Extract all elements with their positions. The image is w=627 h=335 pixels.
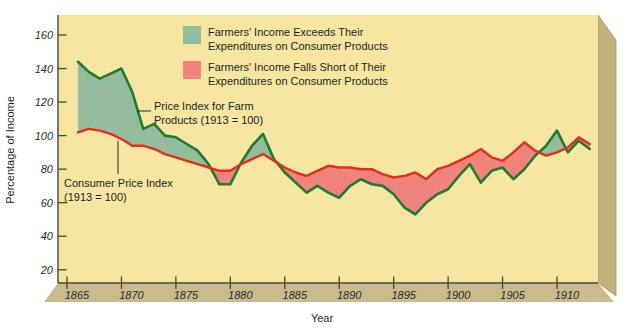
y-tick-label: 120	[35, 96, 54, 108]
cpi-label-line1: Consumer Price Index	[64, 177, 173, 189]
y-tick-label: 60	[41, 197, 54, 209]
x-tick-label: 1880	[228, 289, 253, 301]
farm-index-label-line1: Price Index for Farm	[154, 100, 254, 112]
farm-index-label-line2: Products (1913 = 100)	[154, 114, 263, 126]
x-tick-label: 1870	[119, 289, 144, 301]
y-tick-label: 20	[40, 264, 54, 276]
x-tick-label: 1885	[283, 289, 308, 301]
x-tick-label: 1865	[65, 289, 90, 301]
legend-label-exceeds-line1: Farmers' Income Exceeds Their	[208, 26, 364, 38]
x-tick-label: 1890	[337, 289, 362, 301]
y-tick-label: 160	[35, 29, 54, 41]
cpi-label-line2: (1913 = 100)	[64, 191, 127, 203]
farm-income-area-chart: 16014012010080604020 1865187018751880188…	[0, 0, 627, 335]
x-tick-label: 1900	[446, 289, 471, 301]
legend-label-falls-short-line2: Expenditures on Consumer Products	[208, 75, 388, 87]
y-axis-title: Percentage of Income	[4, 96, 16, 204]
chart-page: 16014012010080604020 1865187018751880188…	[0, 0, 627, 335]
legend-swatch-income-exceeds	[183, 26, 201, 44]
panel-side-face	[598, 15, 616, 296]
y-tick-label: 80	[41, 163, 54, 175]
x-axis-title: Year	[311, 312, 334, 324]
y-tick-label: 40	[41, 230, 54, 242]
legend-label-exceeds-line2: Expenditures on Consumer Products	[208, 40, 388, 52]
y-tick-label: 140	[35, 63, 54, 75]
x-tick-label: 1875	[174, 289, 199, 301]
legend-swatch-income-falls-short	[183, 61, 201, 79]
x-tick-label: 1895	[391, 289, 416, 301]
y-tick-label: 100	[35, 130, 54, 142]
legend-label-falls-short-line1: Farmers' Income Falls Short of Their	[208, 61, 386, 73]
x-tick-label: 1910	[555, 289, 580, 301]
x-tick-label: 1905	[500, 289, 525, 301]
